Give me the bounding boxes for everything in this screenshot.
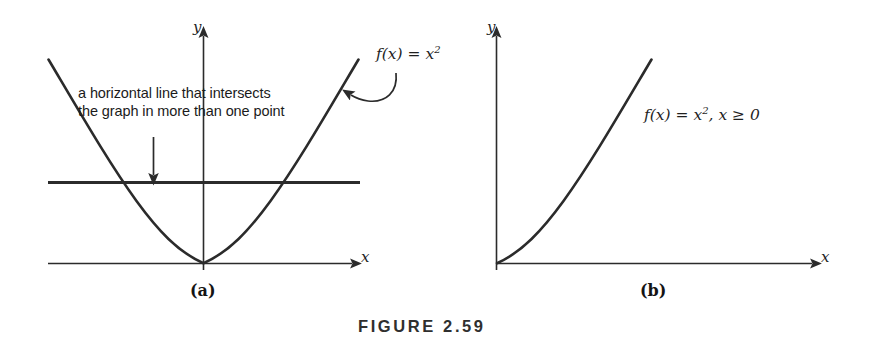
panel-b-sublabel: (b) [640,281,666,301]
panel-b-x-axis-label: x [821,248,829,267]
panel-a-sublabel: (a) [190,281,216,301]
panel-a-annotation: a horizontal line that intersects the gr… [78,84,284,121]
panel-a-y-axis-label: y [193,18,201,37]
panel-a-annotation-line-1: a horizontal line that intersects [78,84,284,102]
panel-a-function-callout-arrow [351,73,396,101]
panel-b-function-base: x [693,106,702,124]
panel-a-graph [48,36,396,270]
panel-b-function-equals: = [671,106,694,124]
panel-a-function-label: f(x) = x2 [376,44,441,65]
figure-container: y x a horizontal line that intersects th… [0,0,872,354]
panel-b-parabola [497,60,652,264]
panel-b-graph [496,36,812,270]
panel-b-y-axis-label: y [487,18,495,37]
panel-a-function-name: f(x) [376,45,403,63]
figure-caption: FIGURE 2.59 [358,316,486,337]
panel-a-x-axis-label: x [361,248,369,267]
panel-a-function-base: x [425,45,434,63]
panel-b-function-domain: , x ≥ 0 [709,106,760,124]
panel-a-annotation-line-2: the graph in more than one point [78,102,284,120]
panel-b-function-name: f(x) [644,106,671,124]
panel-a-function-exponent: 2 [434,44,440,55]
panel-a-function-equals: = [403,45,426,63]
panel-b-function-label: f(x) = x2, x ≥ 0 [644,105,760,126]
